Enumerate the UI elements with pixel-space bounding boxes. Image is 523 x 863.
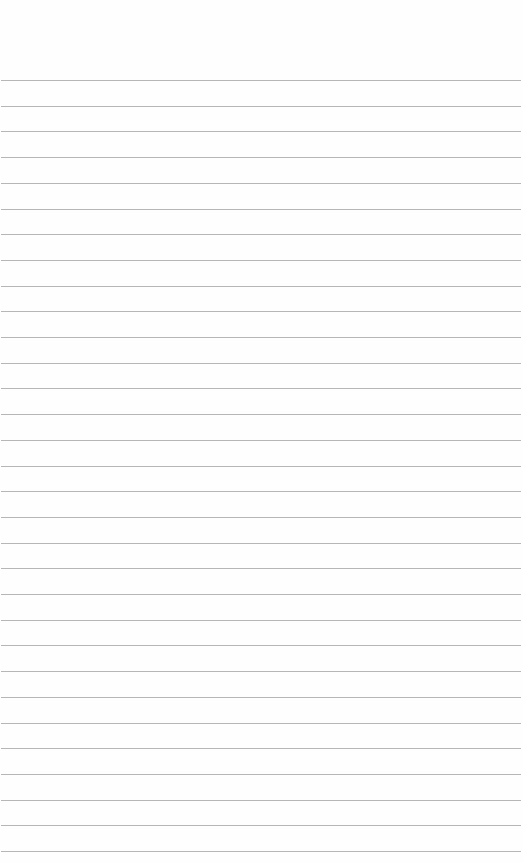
lined-paper-page bbox=[0, 0, 523, 863]
ruled-line bbox=[1, 337, 521, 338]
ruled-line bbox=[1, 697, 521, 698]
ruled-line bbox=[1, 363, 521, 364]
ruled-line bbox=[1, 80, 521, 81]
ruled-line bbox=[1, 671, 521, 672]
ruled-line bbox=[1, 311, 521, 312]
ruled-line bbox=[1, 286, 521, 287]
ruled-line bbox=[1, 543, 521, 544]
ruled-line bbox=[1, 466, 521, 467]
ruled-line bbox=[1, 774, 521, 775]
ruled-line bbox=[1, 594, 521, 595]
ruled-line bbox=[1, 825, 521, 826]
ruled-line bbox=[1, 260, 521, 261]
ruled-line bbox=[1, 620, 521, 621]
ruled-line bbox=[1, 645, 521, 646]
ruled-line bbox=[1, 517, 521, 518]
ruled-line bbox=[1, 568, 521, 569]
ruled-line bbox=[1, 388, 521, 389]
ruled-line bbox=[1, 723, 521, 724]
ruled-line bbox=[1, 491, 521, 492]
ruled-line bbox=[1, 440, 521, 441]
ruled-line bbox=[1, 157, 521, 158]
ruled-line bbox=[1, 183, 521, 184]
ruled-line bbox=[1, 800, 521, 801]
ruled-line bbox=[1, 414, 521, 415]
ruled-line bbox=[1, 131, 521, 132]
ruled-line bbox=[1, 748, 521, 749]
ruled-line bbox=[1, 851, 521, 852]
ruled-line bbox=[1, 234, 521, 235]
ruled-line bbox=[1, 106, 521, 107]
ruled-line bbox=[1, 209, 521, 210]
